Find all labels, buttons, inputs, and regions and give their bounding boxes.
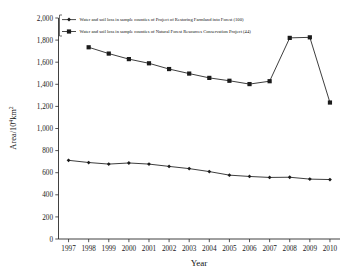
y-tick-label: 1,600 [37,59,54,67]
x-tick-label: 2000 [122,245,137,253]
legend-entry-restoring-farmland[interactable]: Water and soil loss in sample counties o… [62,17,244,22]
data-point-marker [87,45,91,49]
y-axis-title-tail: km [9,109,18,120]
line-chart-canvas: 02004006008001,0001,2001,4001,6001,8002,… [0,0,351,274]
data-point-marker [328,100,332,104]
data-point-marker [127,57,131,61]
series-1 [67,158,332,181]
data-point-marker [248,175,252,179]
y-tick-label: 800 [42,147,53,155]
data-point-marker [308,35,312,39]
legend-bracket [60,15,63,36]
data-point-marker [207,170,211,174]
data-point-marker [67,158,71,162]
y-tick-label: 400 [42,191,53,199]
y-axis-title: Area/104km2 [8,106,18,149]
data-point-marker [167,165,171,169]
x-axis-title: Year [191,258,208,268]
chart-figure: 02004006008001,0001,2001,4001,6001,8002,… [0,0,351,274]
data-point-marker [147,162,151,166]
data-point-marker [328,178,332,182]
x-tick-label: 2004 [202,245,217,253]
y-axis-title-tail-exp: 2 [8,106,14,109]
data-point-marker [288,36,292,40]
data-point-marker [187,71,191,75]
x-tick-label: 2002 [162,245,177,253]
y-tick-label: 1,200 [37,103,54,111]
y-axis-title-base: Area/10 [9,123,18,150]
data-point-marker [167,67,171,71]
x-tick-label: 1998 [81,245,96,253]
legend-label-1: Water and soil loss in sample counties o… [80,17,244,22]
legend-entry-natural-forest[interactable]: Water and soil loss in sample counties o… [62,29,251,34]
chart-legend: Water and soil loss in sample counties o… [60,15,252,36]
x-tick-label: 1999 [102,245,117,253]
x-tick-label: 2009 [303,245,318,253]
legend-marker-square [67,29,71,33]
x-tick-label: 2003 [182,245,197,253]
data-point-marker [308,177,312,181]
data-point-marker [268,79,272,83]
y-tick-label: 600 [42,169,53,177]
data-point-marker [268,176,272,180]
x-tick-label: 2006 [242,245,257,253]
y-tick-label: 0 [49,236,53,244]
x-tick-label: 2007 [262,245,277,253]
y-tick-group: 02004006008001,0001,2001,4001,6001,8002,… [37,15,59,244]
data-point-marker [187,167,191,171]
svg-text:Area/104km2: Area/104km2 [8,106,18,149]
y-tick-label: 1,800 [37,37,54,45]
x-tick-label: 2001 [142,245,157,253]
series-2 [87,35,332,104]
data-point-marker [207,76,211,80]
data-point-marker [147,61,151,65]
data-point-marker [107,162,111,166]
data-point-marker [87,161,91,165]
series-group [67,35,332,181]
x-tick-label: 1997 [61,245,76,253]
legend-marker-diamond [67,18,71,22]
y-tick-label: 200 [42,214,53,222]
data-point-marker [107,51,111,55]
legend-label-2: Water and soil loss in sample counties o… [80,29,252,34]
x-tick-label: 2008 [283,245,298,253]
x-tick-group: 1997199819992000200120022003200420052006… [61,239,337,253]
data-point-marker [288,175,292,179]
data-point-marker [228,173,232,177]
x-tick-label: 2005 [222,245,237,253]
x-tick-label: 2010 [323,245,338,253]
series-polyline [89,37,330,102]
data-point-marker [247,82,251,86]
y-tick-label: 1,000 [37,125,54,133]
data-point-marker [227,79,231,83]
y-tick-label: 2,000 [37,15,54,23]
y-tick-label: 1,400 [37,81,54,89]
data-point-marker [127,161,131,165]
